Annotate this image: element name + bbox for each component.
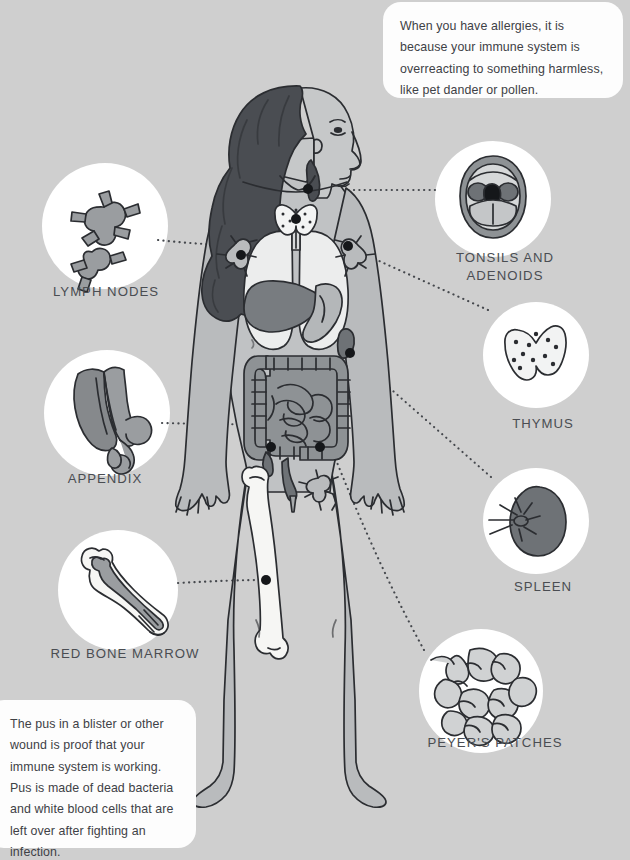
label-thymus: THYMUS (455, 415, 630, 433)
callout-allergies-text: When you have allergies, it is because y… (400, 16, 606, 101)
label-spleen: SPLEEN (455, 578, 630, 596)
label-tonsils-and-adenoids: TONSILS AND ADENOIDS (412, 249, 598, 285)
label-lymph-nodes: LYMPH NODES (18, 283, 194, 301)
tonsils-adenoids-icon (460, 156, 526, 238)
callout-pus-text: The pus in a blister or other wound is p… (10, 714, 179, 860)
callout-allergies: When you have allergies, it is because y… (383, 2, 623, 98)
label-peyers-patches: PEYER'S PATCHES (395, 734, 595, 752)
label-red-bone-marrow: RED BONE MARROW (25, 645, 225, 663)
body-figure (176, 86, 405, 807)
callout-pus: The pus in a blister or other wound is p… (0, 700, 196, 848)
thymus-icon (505, 326, 566, 380)
label-appendix: APPENDIX (20, 470, 190, 488)
